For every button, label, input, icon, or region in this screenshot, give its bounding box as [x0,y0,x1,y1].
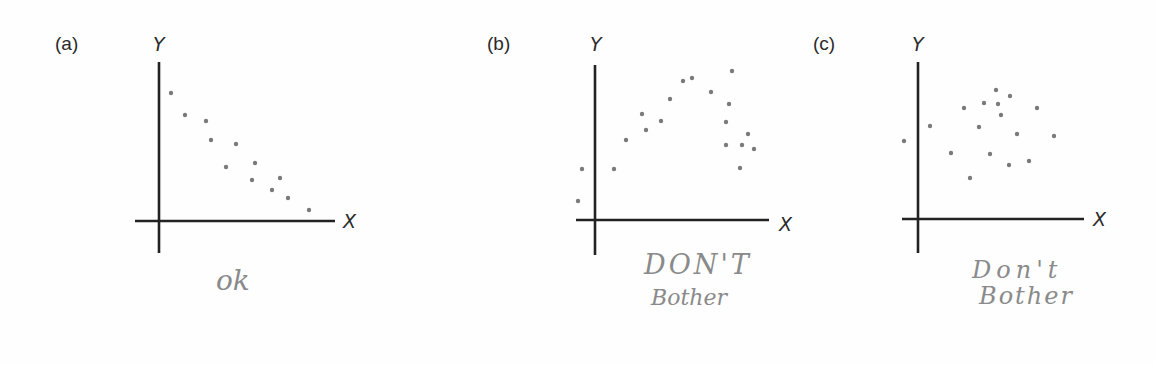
data-point [580,167,584,171]
data-point [681,79,685,83]
data-point [977,125,981,129]
data-point [902,139,906,143]
data-point [928,124,932,128]
data-point [286,196,290,200]
data-point [270,188,274,192]
panel-b-plot [576,65,769,255]
data-point [234,142,238,146]
data-point [738,166,742,170]
data-point [644,128,648,132]
data-point [968,176,972,180]
panel-c-plot [902,62,1084,253]
data-point [253,161,257,165]
data-point [1035,106,1039,110]
data-point [727,102,731,106]
data-point [949,151,953,155]
data-point [307,208,311,212]
data-point [1008,94,1012,98]
data-point [988,152,992,156]
data-point [740,143,744,147]
data-point [724,143,728,147]
data-point [746,132,750,136]
scatter-plots [0,0,1155,365]
data-point [724,120,728,124]
data-point [250,178,254,182]
data-point [224,165,228,169]
data-point [624,138,628,142]
data-point [1052,134,1056,138]
data-point [169,91,173,95]
data-point [576,199,580,203]
data-point [668,97,672,101]
data-point [204,119,208,123]
data-point [996,102,1000,106]
data-point [1027,159,1031,163]
data-point [994,88,998,92]
data-point [730,69,734,73]
data-point [709,90,713,94]
data-point [1007,163,1011,167]
data-point [999,113,1003,117]
data-point [640,112,644,116]
panel-a-plot [135,62,335,253]
data-point [752,147,756,151]
data-point [962,106,966,110]
data-point [612,167,616,171]
data-point [690,76,694,80]
data-point [278,176,282,180]
data-point [659,119,663,123]
data-point [982,101,986,105]
figure-page: (a) (b) (c) Y X Y X Y X ok DON'T Bother … [0,0,1155,365]
data-point [209,138,213,142]
data-point [183,113,187,117]
data-point [1015,132,1019,136]
